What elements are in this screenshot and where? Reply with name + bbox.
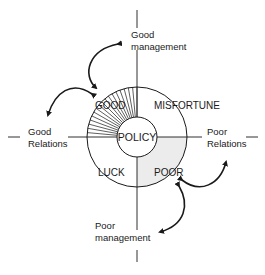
arrow-good-to-good-relations xyxy=(48,88,92,115)
quadrant-poor-label: POOR xyxy=(154,167,183,178)
quadrant-misfortune-label: MISFORTUNE xyxy=(154,100,220,111)
quadrant-luck-label: LUCK xyxy=(98,167,125,178)
top-label-line2: management xyxy=(131,41,187,52)
right-label-line1: Poor xyxy=(207,126,227,137)
arrow-good-management-to-good xyxy=(89,44,118,88)
arrow-poor-to-poor-relations xyxy=(182,162,226,187)
arrow-poor-to-poor-management xyxy=(160,186,185,232)
policy-diagram: GOOD MISFORTUNE LUCK POOR POLICY Good ma… xyxy=(0,0,265,275)
left-label-line1: Good xyxy=(28,126,51,137)
right-label-line2: Relations xyxy=(207,138,247,149)
policy-label: POLICY xyxy=(118,131,157,143)
bottom-label-line2: management xyxy=(95,232,151,243)
quadrant-good-label: GOOD xyxy=(95,100,126,111)
left-label-line2: Relations xyxy=(28,138,68,149)
top-label-line1: Good xyxy=(131,29,154,40)
bottom-label-line1: Poor xyxy=(95,220,115,231)
